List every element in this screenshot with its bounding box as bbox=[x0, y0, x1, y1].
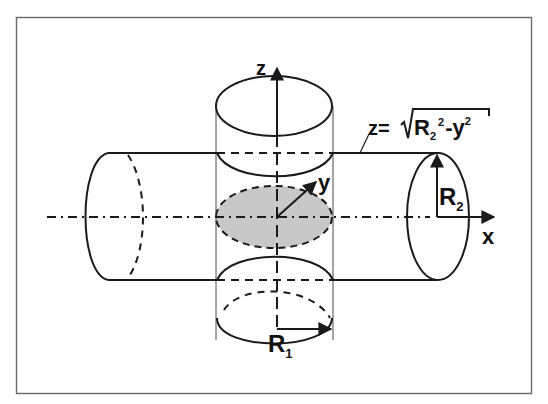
lower-intersection-curve bbox=[217, 257, 333, 280]
x-axis-label: x bbox=[482, 224, 495, 249]
y-axis-label: y bbox=[318, 170, 331, 195]
cylinder-intersection-diagram: z y x R2 R1 z= R22-y2 bbox=[0, 0, 548, 404]
vertical-cylinder-top-ellipse bbox=[216, 76, 332, 136]
surface-equation: z= R22-y2 bbox=[368, 109, 489, 142]
equation-body: R22-y2 bbox=[414, 115, 471, 142]
equation-prefix: z= bbox=[368, 117, 390, 139]
r2-label: R2 bbox=[439, 183, 464, 214]
r1-label: R1 bbox=[268, 330, 293, 361]
upper-intersection-curve bbox=[217, 153, 333, 176]
z-axis-label: z bbox=[256, 57, 266, 79]
